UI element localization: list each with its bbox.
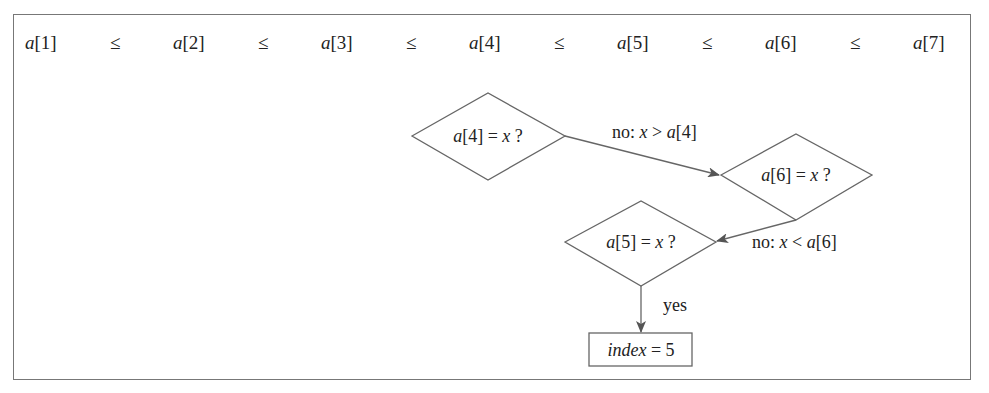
- edge-yes-label: yes: [663, 295, 687, 315]
- decision-a5-label: a[5] = x ?: [606, 232, 676, 252]
- result-label: index = 5: [607, 340, 674, 360]
- edge-no-gt-label: no: x > a[4]: [612, 122, 697, 142]
- decision-a6-label: a[6] = x ?: [761, 165, 831, 185]
- decision-a4-label: a[4] = x ?: [453, 126, 523, 146]
- edge-no-lt-label: no: x < a[6]: [752, 232, 837, 252]
- flowchart: a[4] = x ? no: x > a[4] a[6] = x ? no: x…: [0, 0, 989, 393]
